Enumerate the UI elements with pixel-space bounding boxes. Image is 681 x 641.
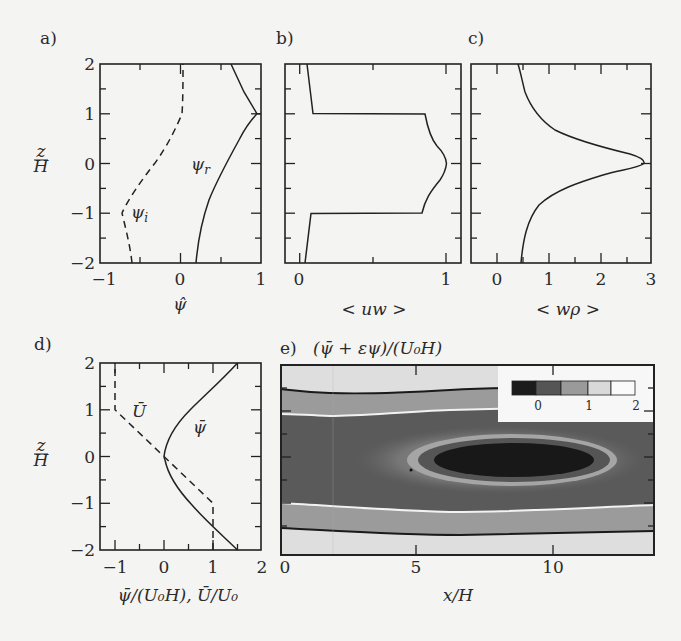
panel-d-ylabel: z H (33, 435, 50, 470)
svg-text:1: 1 (585, 399, 593, 413)
panel-c-frame (471, 64, 651, 263)
psi-i-curve (122, 64, 183, 263)
svg-text:H: H (33, 156, 50, 176)
svg-text:0: 0 (294, 269, 305, 289)
panel-a-ytick-labels: 2 1 0 −1 −2 (70, 54, 95, 273)
svg-text:1: 1 (84, 400, 95, 420)
panel-a-ticks (100, 64, 261, 263)
svg-text:−1: −1 (102, 557, 127, 577)
ubar-annotation: Ū (132, 401, 147, 421)
panel-a-ylabel: z H (33, 141, 50, 176)
panel-b-xtick-labels: 0 1 (294, 269, 452, 289)
svg-text:1: 1 (208, 557, 219, 577)
svg-text:−2: −2 (70, 540, 95, 560)
panel-a-xlabel: ψ̂ (173, 294, 187, 314)
panel-a-xtick-labels: −1 0 1 (91, 269, 266, 289)
psibar-annotation: ψ̄ (193, 417, 207, 437)
panel-c-label: c) (468, 28, 484, 48)
svg-text:2: 2 (84, 54, 95, 74)
panel-a-label: a) (40, 28, 57, 48)
svg-text:3: 3 (646, 269, 657, 289)
panel-c-xtick-labels: 0 1 2 3 (492, 269, 657, 289)
svg-text:−1: −1 (70, 493, 95, 513)
panel-c-ticks (471, 64, 651, 263)
panel-c-xlabel: < wρ > (536, 299, 600, 319)
svg-text:1: 1 (256, 269, 267, 289)
panel-d-ticks (100, 363, 261, 550)
panel-a-frame (100, 64, 261, 263)
panel-e-title: (ψ̄ + εψ)/(U₀H) (313, 338, 442, 358)
panel-d-xtick-labels: −1 0 1 2 (102, 557, 267, 577)
panel-c: c) 0 1 2 3 < wρ > (468, 28, 656, 319)
svg-text:1: 1 (544, 269, 555, 289)
svg-text:0: 0 (175, 269, 186, 289)
panel-d-label: d) (34, 334, 52, 354)
svg-text:H: H (33, 450, 50, 470)
panel-d-frame (100, 363, 261, 550)
ubar-curve (115, 363, 213, 550)
svg-text:2: 2 (596, 269, 607, 289)
svg-text:1: 1 (84, 104, 95, 124)
panel-e-xlabel: x/H (443, 585, 474, 605)
svg-text:5: 5 (411, 557, 422, 577)
psi-r-annotation: ψr (191, 154, 211, 177)
svg-text:0: 0 (534, 399, 542, 413)
panel-b: b) 0 1 < uw > (276, 28, 461, 319)
wrho-curve (518, 64, 644, 263)
panel-b-frame (285, 64, 461, 263)
panel-e-label: e) (280, 338, 297, 358)
panel-b-xlabel: < uw > (342, 299, 407, 319)
svg-text:2: 2 (632, 399, 640, 413)
svg-text:10: 10 (542, 557, 564, 577)
psibar-curve (164, 363, 238, 550)
svg-text:1: 1 (441, 269, 452, 289)
panel-b-label: b) (276, 28, 294, 48)
figure: a) ψr ψi 2 1 0 −1 −2 (0, 0, 681, 641)
svg-text:0: 0 (159, 557, 170, 577)
svg-text:0: 0 (84, 154, 95, 174)
svg-text:−1: −1 (91, 269, 116, 289)
panel-d-ytick-labels: 2 1 0 −1 −2 (70, 353, 95, 560)
svg-text:0: 0 (492, 269, 503, 289)
panel-a: a) ψr ψi 2 1 0 −1 −2 (33, 28, 267, 314)
panel-d: d) Ū ψ̄ 2 1 0 −1 −2 (33, 334, 268, 605)
panel-e-xtick-labels: 0 5 10 (280, 557, 564, 577)
svg-text:−1: −1 (70, 203, 95, 223)
panel-d-xlabel: ψ̄/(U₀H), Ū/U₀ (118, 585, 238, 605)
psi-i-annotation: ψi (131, 202, 148, 225)
svg-text:0: 0 (280, 557, 291, 577)
svg-text:0: 0 (84, 447, 95, 467)
svg-text:2: 2 (84, 353, 95, 373)
uw-curve (305, 64, 447, 263)
panel-b-ticks (285, 64, 461, 263)
eddy-core (434, 443, 594, 477)
panel-e: e) (ψ̄ + εψ)/(U₀H) (280, 338, 654, 605)
svg-text:2: 2 (257, 557, 268, 577)
